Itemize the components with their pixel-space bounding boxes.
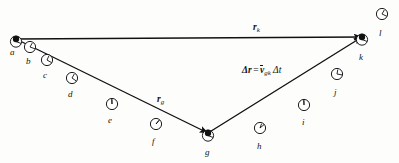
clock-marker-j (331, 68, 342, 79)
equation-equals: = (253, 65, 258, 75)
point-label-c: c (43, 71, 47, 80)
point-label-i: i (302, 118, 305, 127)
point-label-d: d (68, 90, 73, 99)
point-label-a: a (10, 48, 15, 57)
point-label-b: b (26, 57, 31, 66)
vector-diagram-figure: rk rg Δr=vgk Δt abcdefghijkl (0, 0, 399, 163)
point-label-j: j (334, 88, 337, 97)
vector-subscript-r-g: g (161, 98, 165, 106)
clock-marker-a (10, 36, 21, 47)
clock-marker-f (150, 118, 161, 129)
vector-arrow-delta-r (208, 37, 362, 133)
vector-arrow-r-g (16, 39, 208, 133)
clock-marker-i (298, 99, 309, 110)
vertex-dot-g (205, 130, 211, 136)
clock-marker-d (66, 72, 77, 83)
vector-label-r-g: rg (157, 95, 164, 106)
vertex-dot-a (13, 36, 19, 42)
equation-t: t (279, 65, 282, 75)
point-label-f: f (152, 137, 155, 146)
vertex-dot-k (359, 34, 365, 40)
displacement-equation: Δr=vgk Δt (242, 66, 281, 77)
clock-marker-e (106, 98, 117, 109)
clock-marker-c (41, 54, 52, 65)
vector-arrow-r-k (16, 37, 362, 39)
clock-markers-group (10, 8, 387, 141)
point-label-e: e (108, 116, 112, 125)
clock-marker-g (202, 130, 213, 141)
clock-marker-l (376, 8, 387, 19)
vector-label-r-k: rk (253, 23, 260, 34)
clock-marker-h (254, 122, 265, 133)
vector-subscript-r-k: k (257, 26, 260, 34)
point-label-h: h (257, 142, 262, 151)
point-label-g: g (205, 148, 210, 157)
diagram-canvas (0, 0, 399, 163)
equation-r: r (248, 65, 252, 75)
equation-v-bar: v (260, 66, 264, 76)
point-label-k: k (359, 53, 363, 62)
vector-lines-group (16, 37, 362, 133)
clock-marker-k (356, 34, 367, 45)
point-label-l: l (379, 29, 382, 38)
clock-marker-b (24, 41, 35, 52)
